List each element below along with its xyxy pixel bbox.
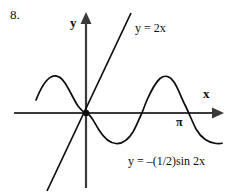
- curve-negative-half-sine-2x: [36, 76, 222, 144]
- sine-equation-annotation: y = –(1/2)sin 2x: [128, 155, 205, 167]
- line-y-equals-2x: [47, 13, 131, 191]
- y-axis-label: y: [70, 16, 77, 29]
- y-axis-arrowhead: [81, 12, 92, 24]
- x-axis-label: x: [203, 87, 210, 100]
- problem-number: 8.: [10, 8, 20, 21]
- x-axis-arrowhead: [212, 108, 224, 119]
- origin-point: [83, 110, 89, 116]
- x-tick-label-pi: π: [176, 116, 183, 128]
- graph-figure: 8. y x π y = 2x y = –(1/2)sin 2x: [0, 0, 235, 195]
- line-equation-annotation: y = 2x: [135, 22, 166, 34]
- x-axis: [14, 108, 224, 119]
